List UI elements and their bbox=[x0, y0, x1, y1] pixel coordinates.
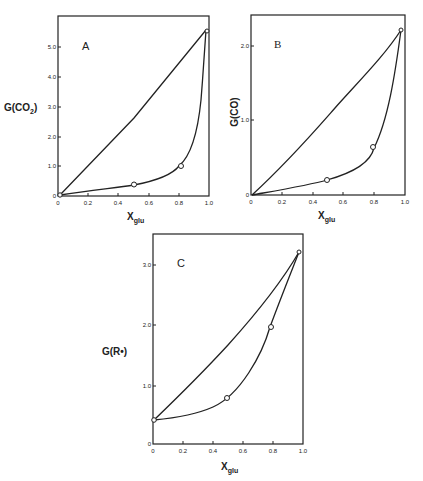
x-tick-label: 0.6 bbox=[339, 199, 348, 205]
y-tick-label: 2.0 bbox=[241, 43, 250, 49]
data-markers bbox=[325, 28, 404, 183]
x-tick-label: 0.4 bbox=[209, 448, 218, 454]
x-tick-label: 0.6 bbox=[239, 448, 248, 454]
chart-panel-c: 0 1.0 2.0 3.0 0 0.2 0.4 0.6 0.8 1.0 C G(… bbox=[102, 234, 308, 475]
x-axis-label: Xglu bbox=[318, 210, 335, 224]
x-tick-label: 1.0 bbox=[401, 199, 410, 205]
plot-frame bbox=[58, 16, 209, 196]
x-tick-label: 0 bbox=[151, 448, 155, 454]
y-axis-label: G(CO) bbox=[229, 97, 240, 126]
x-tick-label: 0.2 bbox=[278, 199, 287, 205]
panel-letter: A bbox=[82, 40, 90, 52]
x-tick-label: 1.0 bbox=[299, 448, 308, 454]
data-markers bbox=[152, 250, 301, 422]
x-axis-label: Xglu bbox=[221, 461, 238, 475]
x-tick-label: 0.4 bbox=[309, 199, 318, 205]
y-tick-label: 1.0 bbox=[241, 117, 250, 123]
y-axis-label: G(CO2) bbox=[4, 102, 37, 115]
x-tick-label: 0.4 bbox=[114, 200, 123, 206]
x-tick-label: 0.6 bbox=[145, 200, 154, 206]
x-axis-label: Xglu bbox=[127, 211, 144, 225]
x-tick-label: 0.8 bbox=[269, 448, 278, 454]
y-tick-label: 2.0 bbox=[143, 322, 152, 328]
y-tick-label: 0 bbox=[53, 193, 57, 199]
measured-curve bbox=[252, 30, 401, 195]
panel-letter: C bbox=[177, 257, 185, 269]
y-tick-label: 3.0 bbox=[143, 262, 152, 268]
panel-letter: B bbox=[274, 38, 281, 50]
x-tick-label: 0.8 bbox=[370, 199, 379, 205]
x-tick-label: 0 bbox=[56, 200, 60, 206]
measured-curve bbox=[154, 252, 299, 420]
y-tick-label: 1.0 bbox=[48, 163, 57, 169]
figure: 0 1.0 2.0 3.0 4.0 5.0 0 0.2 0.4 0.6 0.8 … bbox=[0, 0, 423, 481]
y-tick-label: 2.0 bbox=[48, 134, 57, 140]
x-tick-label: 0.8 bbox=[175, 200, 184, 206]
y-tick-label: 3.0 bbox=[48, 104, 57, 110]
linear-curve bbox=[60, 30, 206, 195]
y-tick-label: 1.0 bbox=[143, 383, 152, 389]
plot-frame bbox=[153, 234, 303, 444]
measured-curve bbox=[60, 30, 206, 195]
x-tick-label: 1.0 bbox=[205, 200, 214, 206]
x-tick-label: 0.2 bbox=[84, 200, 93, 206]
y-tick-label: 0 bbox=[246, 192, 250, 198]
x-tick-label: 0 bbox=[249, 199, 253, 205]
chart-panel-b: 0 1.0 2.0 0 0.2 0.4 0.6 0.8 1.0 B G(CO) … bbox=[229, 15, 410, 224]
y-tick-label: 4.0 bbox=[48, 74, 57, 80]
y-axis-label: G(R•) bbox=[102, 346, 127, 357]
chart-panel-a: 0 1.0 2.0 3.0 4.0 5.0 0 0.2 0.4 0.6 0.8 … bbox=[4, 16, 214, 225]
linear-curve bbox=[154, 252, 299, 420]
y-tick-label: 5.0 bbox=[48, 44, 57, 50]
y-tick-label: 0 bbox=[148, 441, 152, 447]
linear-curve bbox=[252, 30, 401, 195]
x-tick-label: 0.2 bbox=[179, 448, 188, 454]
